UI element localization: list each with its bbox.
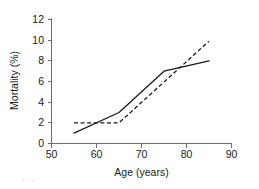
figure-caption-fragment: ·· · <box>22 176 36 186</box>
figure-container: 0 2 4 6 8 10 12 50 60 70 80 90 Age (year… <box>0 0 259 189</box>
y-axis-title: Mortality (%) <box>8 51 20 110</box>
x-axis-title: Age (years) <box>114 166 168 178</box>
mortality-vs-age-chart: 0 2 4 6 8 10 12 50 60 70 80 90 Age (year… <box>0 0 259 189</box>
x-tick-label-70: 70 <box>136 148 148 160</box>
x-tick-label-50: 50 <box>46 148 58 160</box>
x-tick-label-60: 60 <box>91 148 103 160</box>
y-tick-label-6: 6 <box>38 75 44 87</box>
y-tick-label-4: 4 <box>38 96 44 108</box>
y-tick-label-10: 10 <box>32 34 44 46</box>
y-tick-label-0: 0 <box>38 137 44 149</box>
y-tick-label-2: 2 <box>38 116 44 128</box>
x-tick-label-80: 80 <box>181 148 193 160</box>
y-tick-label-8: 8 <box>38 54 44 66</box>
y-tick-label-12: 12 <box>32 13 44 25</box>
chart-background <box>0 0 259 189</box>
x-tick-label-90: 90 <box>226 148 238 160</box>
